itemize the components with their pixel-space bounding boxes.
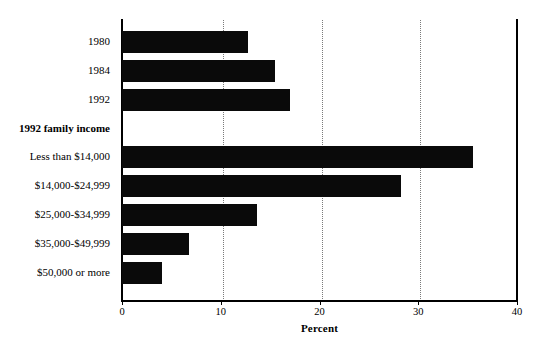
bar-50000-or-more (122, 262, 162, 284)
x-axis-title: Percent (122, 322, 517, 334)
bar-1984 (122, 60, 275, 82)
category-label-50000-or-more: $50,000 or more (0, 266, 110, 279)
plot-area (122, 20, 517, 301)
tick-mark-20 (320, 301, 321, 305)
tick-mark-10 (221, 301, 222, 305)
tick-label-40: 40 (497, 306, 537, 318)
tick-label-30: 30 (398, 306, 438, 318)
bar-35000-49999 (122, 233, 189, 255)
bar-14000-24999 (122, 175, 401, 197)
tick-label-0: 0 (102, 306, 142, 318)
bar-1980 (122, 31, 248, 53)
category-label-1984: 1984 (0, 64, 110, 77)
tick-label-10: 10 (201, 306, 241, 318)
tick-mark-30 (418, 301, 419, 305)
bar-1992 (122, 89, 290, 111)
bar-25000-34999 (122, 204, 257, 226)
category-label-14000-24999: $14,000-$24,999 (0, 179, 110, 192)
category-label-1980: 1980 (0, 35, 110, 48)
bar-chart: 1980 1984 1992 1992 family income Less t… (0, 0, 554, 348)
tick-mark-0 (122, 301, 123, 305)
category-label-35000-49999: $35,000-$49,999 (0, 237, 110, 250)
bar-less-than-14000 (122, 146, 473, 168)
category-label-1992: 1992 (0, 93, 110, 106)
category-label-less-than-14000: Less than $14,000 (0, 150, 110, 163)
tick-label-20: 20 (300, 306, 340, 318)
group-header-1992-family-income: 1992 family income (0, 122, 110, 135)
tick-mark-40 (517, 301, 518, 305)
category-label-25000-34999: $25,000-$34,999 (0, 208, 110, 221)
category-axis-labels: 1980 1984 1992 1992 family income Less t… (0, 0, 116, 348)
